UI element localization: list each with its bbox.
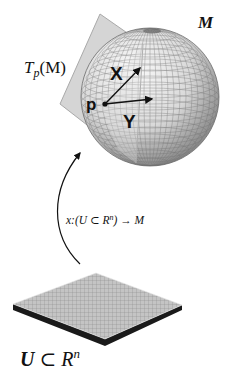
point-p-label: p [86,95,96,114]
vector-x-label: X [110,63,123,84]
tangent-space-label: Tp(M) [24,58,66,80]
manifold-sphere [81,27,219,166]
vector-y-label: Y [123,111,136,132]
domain-label: U ⊂ Rn [20,346,80,370]
svg-text:Tp(M): Tp(M) [24,58,66,80]
svg-text:U ⊂ Rn: U ⊂ Rn [20,346,80,370]
chart-map-arrow [58,153,81,264]
point-p [102,101,107,106]
svg-text:x:(U ⊂ Rn) → M: x:(U ⊂ Rn) → M [65,213,146,227]
chart-map-label: x:(U ⊂ Rn) → M [65,213,146,227]
manifold-tangent-space-diagram: X Y p M Tp(M) x:(U ⊂ Rn) → M U ⊂ Rn [0,0,234,376]
domain-plate [13,273,182,346]
manifold-label: M [197,13,214,32]
